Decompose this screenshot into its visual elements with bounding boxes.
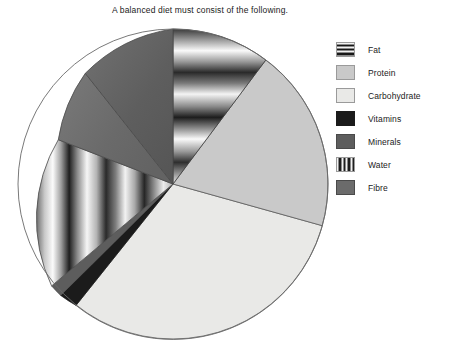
- legend-label-minerals: Minerals: [368, 137, 401, 147]
- legend-label-protein: Protein: [368, 68, 396, 78]
- chart-title: A balanced diet must consist of the foll…: [0, 5, 400, 15]
- legend-swatch-vitamins: [336, 111, 355, 126]
- pie-chart-figure: A balanced diet must consist of the foll…: [0, 0, 454, 348]
- pie-svg: [14, 27, 332, 343]
- legend-swatch-fibre: [336, 180, 355, 195]
- legend-label-fibre: Fibre: [368, 183, 388, 193]
- legend-label-carbohydrate: Carbohydrate: [368, 91, 421, 101]
- legend-item-protein[interactable]: Protein: [336, 61, 452, 84]
- legend-item-fibre[interactable]: Fibre: [336, 176, 452, 199]
- legend-swatch-minerals: [336, 134, 355, 149]
- legend-item-minerals[interactable]: Minerals: [336, 130, 452, 153]
- legend-item-fat[interactable]: Fat: [336, 38, 452, 61]
- legend-swatch-fat: [336, 42, 355, 57]
- legend-label-fat: Fat: [368, 45, 381, 55]
- legend-swatch-carbohydrate: [336, 88, 355, 103]
- legend-swatch-water: [336, 157, 355, 172]
- legend: Fat Protein Carbohydrate Vitamins Minera…: [336, 38, 452, 199]
- legend-label-vitamins: Vitamins: [368, 114, 401, 124]
- legend-item-vitamins[interactable]: Vitamins: [336, 107, 452, 130]
- pie-plot-area: [14, 27, 332, 343]
- legend-item-carbohydrate[interactable]: Carbohydrate: [336, 84, 452, 107]
- legend-item-water[interactable]: Water: [336, 153, 452, 176]
- legend-swatch-protein: [336, 65, 355, 80]
- legend-label-water: Water: [368, 160, 391, 170]
